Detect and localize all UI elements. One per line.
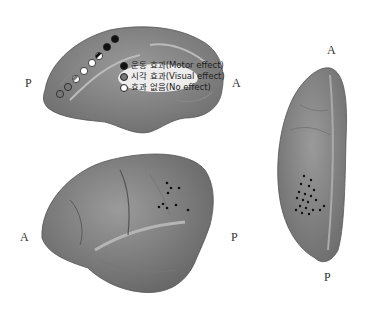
legend-item-motor: 운동 효과(Motor effect) <box>120 60 225 71</box>
dorsal-anterior-label: A <box>327 43 336 58</box>
legend-label: 시각 효과(Visual effect) <box>131 71 225 82</box>
dorsal-posterior-label: P <box>324 270 331 285</box>
medial-anterior-label: A <box>232 76 241 91</box>
motor-dot-icon <box>120 62 128 70</box>
visual-dot-icon <box>120 73 128 81</box>
lateral-posterior-label: P <box>231 230 238 245</box>
electrode-legend: 운동 효과(Motor effect) 시각 효과(Visual effect)… <box>120 60 225 93</box>
legend-item-none: 효과 없음(No effect) <box>120 82 225 93</box>
legend-item-visual: 시각 효과(Visual effect) <box>120 71 225 82</box>
brain-figure <box>0 0 366 315</box>
medial-posterior-label: P <box>25 76 32 91</box>
legend-label: 효과 없음(No effect) <box>131 82 211 93</box>
dorsal-brain-view <box>278 68 347 262</box>
lateral-brain-view <box>42 154 213 293</box>
lateral-anterior-label: A <box>20 230 29 245</box>
no-effect-dot-icon <box>120 84 128 92</box>
legend-label: 운동 효과(Motor effect) <box>131 60 224 71</box>
